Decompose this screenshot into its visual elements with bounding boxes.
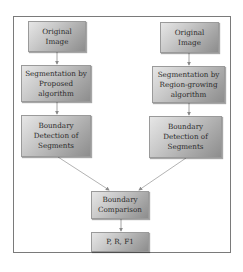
left-segmentation-box: Segmentation by Proposed algorithm (21, 65, 91, 102)
metrics-box: P, R, F1 (91, 232, 149, 252)
left-segmentation-label: Segmentation by Proposed algorithm (24, 69, 88, 99)
left-boundary-detection-box: Boundary Detection of Segments (21, 115, 91, 157)
left-boundary-detection-label: Boundary Detection of Segments (24, 121, 88, 151)
right-original-image-label: Original Image (163, 28, 216, 48)
right-original-image-box: Original Image (160, 22, 219, 53)
left-original-image-label: Original Image (31, 27, 83, 47)
right-boundary-detection-box: Boundary Detection of Segments (149, 116, 222, 158)
right-boundary-detection-label: Boundary Detection of Segments (152, 122, 219, 152)
right-segmentation-box: Segmentation by Region-growing algorithm (152, 66, 225, 103)
boundary-comparison-box: Boundary Comparison (91, 191, 149, 219)
metrics-label: P, R, F1 (106, 237, 134, 247)
boundary-comparison-label: Boundary Comparison (94, 195, 146, 215)
left-original-image-box: Original Image (28, 21, 86, 52)
right-segmentation-label: Segmentation by Region-growing algorithm (155, 70, 222, 100)
